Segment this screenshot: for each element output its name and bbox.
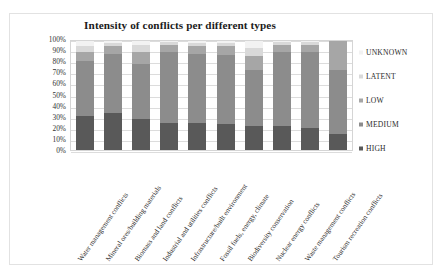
bar-segment-medium[interactable]	[245, 70, 263, 126]
y-axis-tick-labels: 100%90%80%70%60%50%40%30%20%10%0%	[22, 40, 66, 151]
legend-label: UNKNOWN	[366, 48, 407, 57]
legend-swatch-icon	[359, 50, 363, 54]
bar-segment-high[interactable]	[273, 126, 291, 150]
bar-segment-high[interactable]	[217, 124, 235, 150]
bars-layer	[71, 41, 352, 150]
legend-item-low[interactable]: LOW	[359, 96, 384, 105]
bar-column[interactable]	[104, 41, 122, 150]
bar-segment-low[interactable]	[104, 46, 122, 54]
bar-segment-medium[interactable]	[104, 54, 122, 113]
x-axis-category-label: Water management conflicts	[77, 191, 131, 263]
bar-segment-low[interactable]	[76, 52, 94, 61]
x-axis-category-label: Industrial and utilities conflicts	[161, 185, 219, 263]
x-axis-category-label: Fossil fuels, energy, climate	[218, 193, 271, 263]
bar-column[interactable]	[329, 41, 347, 150]
bar-segment-low[interactable]	[245, 56, 263, 70]
bar-segment-high[interactable]	[301, 128, 319, 150]
bar-segment-high[interactable]	[104, 113, 122, 150]
legend-swatch-icon	[359, 122, 363, 126]
bar-segment-medium[interactable]	[188, 54, 206, 123]
y-axis-tick-label: 10%	[22, 136, 66, 143]
y-axis-tick-label: 20%	[22, 125, 66, 132]
legend-label: LOW	[366, 96, 384, 105]
bar-column[interactable]	[273, 41, 291, 150]
bar-segment-high[interactable]	[132, 119, 150, 150]
legend-swatch-icon	[359, 98, 363, 102]
legend-swatch-icon	[359, 74, 363, 78]
bar-segment-high[interactable]	[329, 134, 347, 150]
bar-segment-low[interactable]	[217, 46, 235, 55]
bar-segment-medium[interactable]	[329, 70, 347, 133]
legend-label: MEDIUM	[366, 120, 399, 129]
y-axis-tick-label: 0%	[22, 147, 66, 154]
bar-segment-high[interactable]	[76, 116, 94, 150]
y-axis-tick-label: 80%	[22, 58, 66, 65]
y-axis-tick-label: 40%	[22, 103, 66, 110]
bar-segment-medium[interactable]	[301, 52, 319, 128]
y-axis-tick-label: 50%	[22, 92, 66, 99]
bar-segment-medium[interactable]	[132, 64, 150, 120]
bar-column[interactable]	[188, 41, 206, 150]
legend-item-high[interactable]: HIGH	[359, 144, 386, 153]
bar-column[interactable]	[217, 41, 235, 150]
plot-wrapper: 100%90%80%70%60%50%40%30%20%10%0% Water …	[10, 14, 434, 266]
bar-segment-high[interactable]	[160, 123, 178, 150]
bar-segment-latent[interactable]	[245, 48, 263, 57]
legend-item-medium[interactable]: MEDIUM	[359, 120, 399, 129]
legend-item-unknown[interactable]: UNKNOWN	[359, 48, 407, 57]
bar-segment-high[interactable]	[245, 126, 263, 150]
legend-label: HIGH	[366, 144, 386, 153]
bar-segment-medium[interactable]	[217, 55, 235, 124]
x-axis-category-label: Mineral ores/building materials	[105, 184, 164, 263]
legend-item-latent[interactable]: LATENT	[359, 72, 396, 81]
chart-container: Intensity of conflicts per different typ…	[9, 13, 433, 265]
x-axis-category-label: Infrastructure/built environment	[190, 183, 250, 263]
bar-column[interactable]	[245, 41, 263, 150]
bar-segment-low[interactable]	[132, 52, 150, 64]
y-axis-tick-label: 30%	[22, 114, 66, 121]
bar-column[interactable]	[132, 41, 150, 150]
bar-segment-medium[interactable]	[76, 61, 94, 117]
plot-area	[70, 40, 353, 151]
bar-column[interactable]	[301, 41, 319, 150]
bar-segment-medium[interactable]	[273, 52, 291, 126]
x-axis-category-labels: Water management conflictsMineral ores/b…	[70, 153, 353, 263]
bar-column[interactable]	[160, 41, 178, 150]
bar-segment-high[interactable]	[188, 123, 206, 150]
x-axis-category-label: Tourism recreation conflicts	[331, 192, 384, 263]
legend-label: LATENT	[366, 72, 396, 81]
y-axis-tick-label: 100%	[22, 36, 66, 43]
bar-segment-medium[interactable]	[160, 52, 178, 123]
y-axis-tick-label: 70%	[22, 70, 66, 77]
bar-segment-low[interactable]	[329, 41, 347, 70]
bar-segment-low[interactable]	[188, 46, 206, 54]
legend-swatch-icon	[359, 146, 363, 150]
y-axis-tick-label: 90%	[22, 47, 66, 54]
chart-legend: UNKNOWNLATENTLOWMEDIUMHIGH	[359, 40, 433, 155]
y-axis-tick-label: 60%	[22, 81, 66, 88]
bar-column[interactable]	[76, 41, 94, 150]
x-axis-category-label: Waste management conflicts	[303, 191, 357, 263]
